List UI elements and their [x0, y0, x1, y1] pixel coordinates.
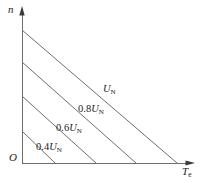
curve-label-subscript: N [77, 127, 82, 135]
x-axis-label: Te [182, 166, 191, 177]
curve-label-prefix: 0.4 [36, 141, 49, 152]
y-axis-arrow-icon [19, 6, 24, 16]
curve-label-symbol: U [49, 141, 57, 152]
y-axis-label: n [8, 4, 14, 15]
curve-label-06un: 0.6UN [56, 123, 82, 134]
curve-label-subscript: N [99, 108, 104, 116]
curve-label-symbol: U [69, 122, 77, 133]
plot-area [0, 0, 203, 183]
curve-label-prefix: 0.6 [56, 122, 69, 133]
x-axis-label-subscript: e [188, 170, 191, 179]
curve-label-04un: 0.4UN [36, 142, 62, 153]
figure-canvas: n Te O UN 0.8UN 0.6UN 0.4UN [0, 0, 203, 183]
curve-label-subscript: N [111, 88, 116, 96]
curve-label-subscript: N [57, 146, 62, 154]
curve-label-08un: 0.8UN [78, 104, 104, 115]
curve-label-symbol: U [91, 103, 99, 114]
curve-label-symbol: U [103, 83, 111, 94]
origin-label: O [9, 152, 17, 163]
curve-label-un: UN [103, 84, 116, 95]
curve-label-prefix: 0.8 [78, 103, 91, 114]
